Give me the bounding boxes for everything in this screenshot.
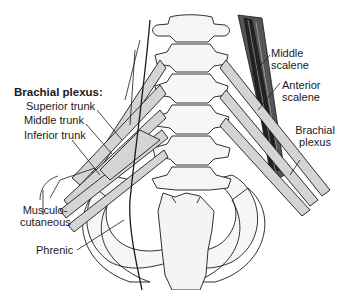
sternum [158, 193, 214, 290]
anatomy-diagram: Brachial plexus: Superior trunk Middle t… [0, 0, 343, 290]
label-middle-scalene-line2: scalene [271, 59, 309, 71]
label-anterior-scalene-line1: Anterior [282, 79, 321, 91]
label-phrenic: Phrenic [36, 244, 73, 256]
label-brachial-plexus-right: Brachial plexus [290, 124, 340, 148]
label-middle-scalene-line1: Middle [271, 47, 309, 59]
label-inferior-trunk: Inferior trunk [24, 129, 86, 141]
label-superior-trunk: Superior trunk [26, 100, 95, 112]
brachial-plexus-heading: Brachial plexus: [14, 86, 103, 98]
label-anterior-scalene-line2: scalene [282, 91, 321, 103]
label-middle-scalene: Middle scalene [271, 47, 309, 71]
label-anterior-scalene: Anterior scalene [282, 79, 321, 103]
cervical-vertebrae [152, 15, 231, 190]
label-brachial-right-line2: plexus [290, 136, 340, 148]
label-musculocutaneous: Musculo- cutaneous [20, 204, 70, 228]
label-middle-trunk: Middle trunk [24, 114, 84, 126]
label-musculo-line1: Musculo- [20, 204, 70, 216]
label-musculo-line2: cutaneous [20, 216, 70, 228]
label-brachial-right-line1: Brachial [290, 124, 340, 136]
